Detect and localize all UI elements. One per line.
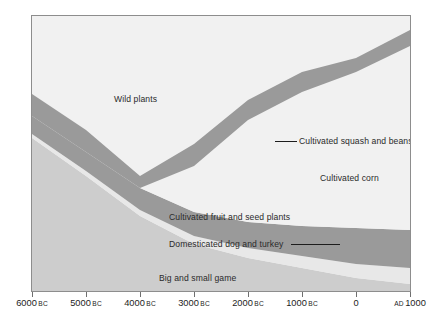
leader-line-dog-and-turkey <box>291 244 340 245</box>
x-axis-tick-marks <box>31 292 411 297</box>
x-axis-tick <box>356 292 357 297</box>
x-axis-label: 6000BC <box>16 298 48 308</box>
leader-line-squash-and-beans <box>275 141 297 142</box>
x-axis-tick <box>86 292 87 297</box>
x-axis-label: AD1000 <box>394 298 426 308</box>
x-axis-label: 0 <box>353 298 358 308</box>
x-axis-label: 5000BC <box>70 298 102 308</box>
band-label-domesticated-dog-and-turkey: Domesticated dog and turkey <box>169 239 283 249</box>
x-axis-tick <box>302 292 303 297</box>
plot-area: Wild plants Cultivated squash and beans … <box>31 15 411 292</box>
x-axis-label: 3000BC <box>178 298 210 308</box>
band-label-wild-plants: Wild plants <box>114 94 157 104</box>
x-axis-label: 4000BC <box>124 298 156 308</box>
chart-figure: Wild plants Cultivated squash and beans … <box>0 0 442 327</box>
x-axis-label: 1000BC <box>286 298 318 308</box>
band-label-cultivated-corn: Cultivated corn <box>320 173 379 183</box>
band-label-cultivated-squash-and-beans: Cultivated squash and beans <box>299 136 411 146</box>
x-axis-tick <box>194 292 195 297</box>
stacked-area-bands <box>32 16 410 291</box>
band-label-big-and-small-game: Big and small game <box>159 273 236 283</box>
x-axis-tick-labels: 6000BC5000BC4000BC3000BC2000BC1000BC0AD1… <box>0 298 442 318</box>
band-label-cultivated-fruit-and-seed-plants: Cultivated fruit and seed plants <box>169 212 290 222</box>
x-axis-label: 2000BC <box>232 298 264 308</box>
x-axis-tick <box>248 292 249 297</box>
x-axis-tick <box>140 292 141 297</box>
x-axis-tick <box>410 292 411 297</box>
x-axis-tick <box>32 292 33 297</box>
